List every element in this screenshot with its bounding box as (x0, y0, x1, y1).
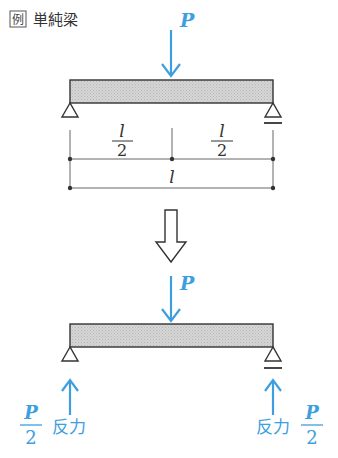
reaction-arrow-up-icon (265, 380, 281, 415)
title: 例 単純梁 (10, 11, 78, 29)
roller-support-icon (264, 347, 282, 368)
svg-text:P: P (23, 402, 38, 423)
load-arrow-icon (162, 276, 180, 321)
example-badge: 例 (12, 13, 24, 27)
dimension-total: l (169, 167, 174, 187)
beam (70, 324, 273, 347)
load-label: P (179, 272, 195, 294)
svg-text:2: 2 (306, 427, 317, 448)
reaction-arrow-up-icon (62, 380, 78, 415)
load-label: P (179, 9, 195, 31)
svg-text:l: l (219, 121, 224, 141)
dimension-half-right: l 2 (211, 121, 233, 160)
roller-support-icon (264, 103, 282, 123)
title-text: 単純梁 (33, 11, 78, 29)
load-arrow-icon (162, 30, 180, 76)
reaction-right: 反力 P 2 (256, 380, 323, 448)
svg-text:2: 2 (217, 141, 227, 160)
beam (70, 80, 273, 103)
bottom-diagram: P P 2 反力 反力 P 2 (20, 272, 323, 448)
pin-support-icon (62, 347, 78, 361)
pin-support-icon (62, 103, 78, 117)
dimension-half-left: l 2 (112, 121, 133, 160)
simple-beam-diagram: 例 単純梁 P l (0, 0, 338, 458)
svg-text:l: l (119, 121, 124, 141)
svg-text:2: 2 (117, 141, 127, 160)
down-hollow-arrow-icon (156, 210, 186, 262)
top-diagram: P l 2 l 2 (62, 9, 282, 190)
reaction-left: P 2 反力 (20, 380, 86, 448)
reaction-label: 反力 (256, 417, 290, 437)
svg-text:2: 2 (25, 427, 36, 448)
svg-text:P: P (304, 402, 319, 423)
reaction-label: 反力 (52, 417, 86, 437)
